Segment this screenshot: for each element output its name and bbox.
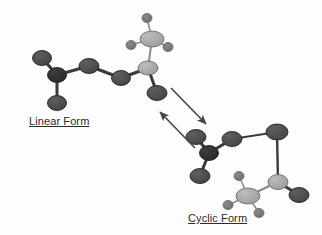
linear-form-atom [48, 68, 67, 83]
cyclic-form-atom [234, 172, 244, 181]
arrow-reverse [160, 112, 195, 148]
cyclic-form-atom [289, 188, 309, 203]
linear-form-atoms [33, 14, 174, 111]
linear-form-atom [79, 59, 99, 74]
linear-form-atom [147, 86, 167, 101]
linear-form-atom [126, 41, 136, 50]
cyclic-form-label: Cyclic Form [188, 212, 247, 224]
linear-form-label: Linear Form [29, 115, 89, 127]
cyclic-form-atom [236, 188, 260, 204]
cyclic-form-atom [254, 209, 264, 218]
linear-form-atom [48, 96, 67, 111]
linear-form-atom [140, 31, 164, 47]
cyclic-form-atom [222, 132, 242, 147]
cyclic-form-atom [200, 146, 219, 161]
cyclic-form-atom [223, 201, 233, 210]
cyclic-form-atom [268, 175, 288, 190]
cyclic-form-atom [190, 169, 210, 184]
cyclic-form-atoms [186, 124, 309, 218]
molecule-diagram-canvas: Linear Form Cyclic Form [0, 0, 322, 235]
linear-form-atom [163, 43, 173, 52]
linear-form-atom [138, 61, 158, 75]
cyclic-form-atom [266, 124, 288, 140]
linear-form-atom [142, 14, 152, 23]
arrow-forward [171, 88, 206, 124]
linear-form-atom [33, 51, 52, 66]
linear-form-atom [112, 71, 131, 86]
